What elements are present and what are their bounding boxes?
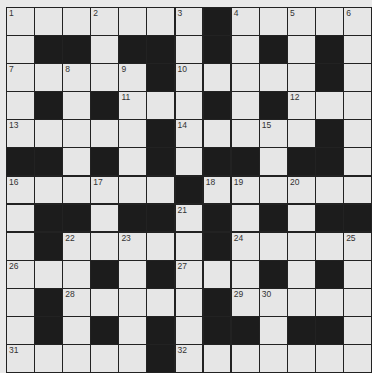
crossword-cell[interactable] <box>204 345 231 372</box>
crossword-cell[interactable]: 16 <box>7 177 34 204</box>
crossword-cell[interactable]: 23 <box>119 233 146 260</box>
crossword-cell[interactable] <box>288 64 315 91</box>
crossword-cell[interactable]: 19 <box>232 177 259 204</box>
crossword-cell[interactable] <box>344 345 371 372</box>
crossword-cell[interactable] <box>35 177 62 204</box>
crossword-cell[interactable] <box>176 317 203 344</box>
crossword-cell[interactable] <box>288 205 315 232</box>
crossword-cell[interactable] <box>63 92 90 119</box>
crossword-cell[interactable] <box>316 8 343 35</box>
crossword-cell[interactable] <box>316 92 343 119</box>
crossword-cell[interactable]: 25 <box>344 233 371 260</box>
crossword-cell[interactable] <box>91 36 118 63</box>
crossword-cell[interactable]: 21 <box>176 205 203 232</box>
crossword-cell[interactable] <box>147 8 174 35</box>
crossword-cell[interactable] <box>176 92 203 119</box>
crossword-cell[interactable] <box>35 345 62 372</box>
crossword-cell[interactable] <box>316 289 343 316</box>
crossword-cell[interactable] <box>260 148 287 175</box>
crossword-cell[interactable]: 30 <box>260 289 287 316</box>
crossword-cell[interactable] <box>288 289 315 316</box>
crossword-cell[interactable] <box>119 8 146 35</box>
crossword-cell[interactable] <box>63 261 90 288</box>
crossword-cell[interactable]: 4 <box>232 8 259 35</box>
crossword-cell[interactable]: 10 <box>176 64 203 91</box>
crossword-cell[interactable] <box>232 205 259 232</box>
crossword-cell[interactable] <box>119 345 146 372</box>
crossword-cell[interactable] <box>260 345 287 372</box>
crossword-cell[interactable] <box>7 317 34 344</box>
crossword-cell[interactable] <box>344 177 371 204</box>
crossword-cell[interactable] <box>119 317 146 344</box>
crossword-cell[interactable] <box>147 177 174 204</box>
crossword-cell[interactable] <box>35 120 62 147</box>
crossword-cell[interactable] <box>35 64 62 91</box>
crossword-cell[interactable] <box>147 289 174 316</box>
crossword-cell[interactable] <box>63 177 90 204</box>
crossword-cell[interactable]: 1 <box>7 8 34 35</box>
crossword-cell[interactable] <box>260 64 287 91</box>
crossword-cell[interactable] <box>316 177 343 204</box>
crossword-cell[interactable] <box>176 233 203 260</box>
crossword-cell[interactable] <box>288 261 315 288</box>
crossword-cell[interactable] <box>344 261 371 288</box>
crossword-cell[interactable] <box>344 289 371 316</box>
crossword-cell[interactable]: 31 <box>7 345 34 372</box>
crossword-cell[interactable] <box>63 317 90 344</box>
crossword-cell[interactable]: 32 <box>176 345 203 372</box>
crossword-cell[interactable] <box>91 205 118 232</box>
crossword-cell[interactable] <box>176 36 203 63</box>
crossword-cell[interactable] <box>316 233 343 260</box>
crossword-cell[interactable] <box>204 261 231 288</box>
crossword-cell[interactable]: 13 <box>7 120 34 147</box>
crossword-cell[interactable] <box>344 148 371 175</box>
crossword-cell[interactable]: 8 <box>63 64 90 91</box>
crossword-cell[interactable] <box>204 120 231 147</box>
crossword-cell[interactable]: 5 <box>288 8 315 35</box>
crossword-cell[interactable]: 6 <box>344 8 371 35</box>
crossword-cell[interactable]: 3 <box>176 8 203 35</box>
crossword-cell[interactable]: 29 <box>232 289 259 316</box>
crossword-cell[interactable] <box>119 148 146 175</box>
crossword-cell[interactable]: 2 <box>91 8 118 35</box>
crossword-cell[interactable] <box>63 8 90 35</box>
crossword-cell[interactable] <box>119 177 146 204</box>
crossword-cell[interactable] <box>63 120 90 147</box>
crossword-cell[interactable] <box>344 64 371 91</box>
crossword-cell[interactable] <box>147 233 174 260</box>
crossword-cell[interactable] <box>232 92 259 119</box>
crossword-cell[interactable]: 9 <box>119 64 146 91</box>
crossword-cell[interactable] <box>119 289 146 316</box>
crossword-cell[interactable] <box>7 36 34 63</box>
crossword-cell[interactable] <box>147 92 174 119</box>
crossword-cell[interactable] <box>260 177 287 204</box>
crossword-cell[interactable]: 18 <box>204 177 231 204</box>
crossword-cell[interactable]: 15 <box>260 120 287 147</box>
crossword-cell[interactable] <box>119 261 146 288</box>
crossword-cell[interactable] <box>91 120 118 147</box>
crossword-cell[interactable] <box>232 345 259 372</box>
crossword-cell[interactable] <box>288 36 315 63</box>
crossword-cell[interactable] <box>344 120 371 147</box>
crossword-cell[interactable] <box>288 233 315 260</box>
crossword-cell[interactable] <box>7 205 34 232</box>
crossword-cell[interactable] <box>344 36 371 63</box>
crossword-cell[interactable] <box>63 148 90 175</box>
crossword-cell[interactable] <box>204 64 231 91</box>
crossword-cell[interactable] <box>344 92 371 119</box>
crossword-cell[interactable] <box>91 289 118 316</box>
crossword-cell[interactable] <box>91 345 118 372</box>
crossword-cell[interactable] <box>232 36 259 63</box>
crossword-cell[interactable]: 7 <box>7 64 34 91</box>
crossword-cell[interactable]: 11 <box>119 92 146 119</box>
crossword-cell[interactable]: 28 <box>63 289 90 316</box>
crossword-cell[interactable]: 22 <box>63 233 90 260</box>
crossword-cell[interactable]: 20 <box>288 177 315 204</box>
crossword-cell[interactable] <box>344 317 371 344</box>
crossword-cell[interactable]: 26 <box>7 261 34 288</box>
crossword-cell[interactable] <box>260 233 287 260</box>
crossword-cell[interactable] <box>91 64 118 91</box>
crossword-cell[interactable] <box>232 261 259 288</box>
crossword-cell[interactable]: 14 <box>176 120 203 147</box>
crossword-cell[interactable] <box>260 8 287 35</box>
